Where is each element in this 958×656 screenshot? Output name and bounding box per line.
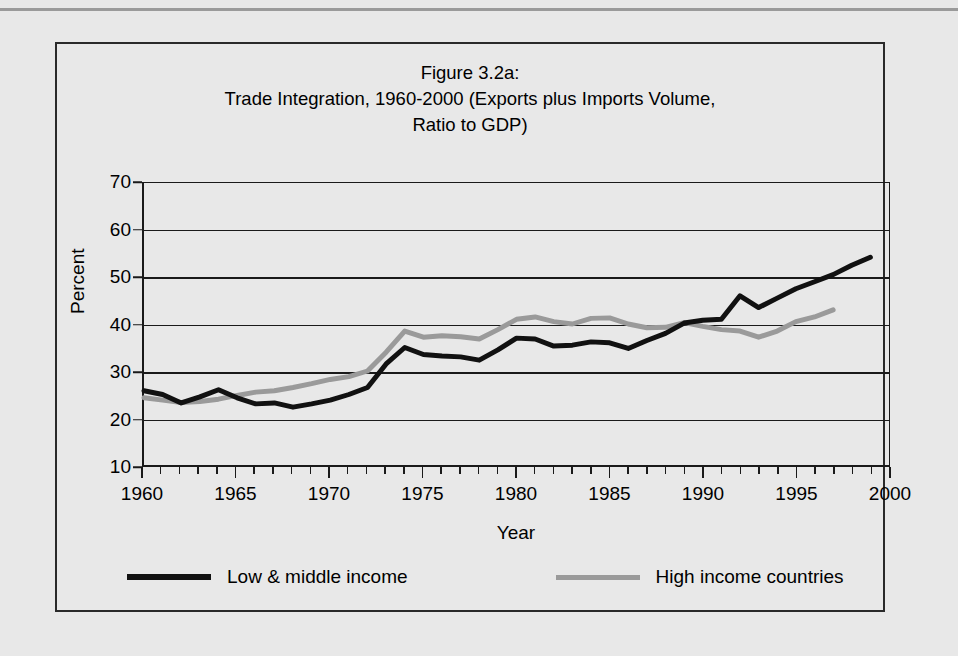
figure-page: Figure 3.2a: Trade Integration, 1960-200… [0, 0, 958, 656]
x-tick-minor [253, 467, 255, 474]
x-tick-major [609, 467, 611, 478]
data-lines [144, 183, 889, 465]
plot-area [142, 182, 890, 467]
y-tick-label: 50 [110, 266, 131, 288]
x-axis-title: Year [142, 522, 890, 544]
x-tick-label: 2000 [869, 483, 911, 505]
y-tick-label: 30 [110, 361, 131, 383]
x-tick-label: 1970 [308, 483, 350, 505]
legend-item-high-income: High income countries [556, 566, 844, 588]
x-tick-minor [403, 467, 405, 474]
x-tick-minor [721, 467, 723, 474]
x-tick-minor [646, 467, 648, 474]
y-axis-title: Percent [67, 249, 89, 314]
x-tick-major [328, 467, 330, 478]
x-tick-label: 1975 [401, 483, 443, 505]
y-tick-label: 20 [110, 409, 131, 431]
y-tick-label: 10 [110, 456, 131, 478]
x-tick-minor [440, 467, 442, 474]
x-tick-minor [758, 467, 760, 474]
legend-item-low-middle-income: Low & middle income [127, 566, 408, 588]
x-tick-major [702, 467, 704, 478]
x-tick-minor [366, 467, 368, 474]
x-tick-minor [197, 467, 199, 474]
x-tick-minor [871, 467, 873, 474]
x-tick-minor [291, 467, 293, 474]
chart-title-line-2: Trade Integration, 1960-2000 (Exports pl… [57, 86, 883, 112]
x-tick-major [141, 467, 143, 478]
page-top-rule [0, 8, 958, 11]
y-tick-label: 40 [110, 314, 131, 336]
x-tick-minor [665, 467, 667, 474]
y-tick-label: 60 [110, 219, 131, 241]
x-tick-major [889, 467, 891, 478]
chart-title: Figure 3.2a: Trade Integration, 1960-200… [57, 60, 883, 138]
x-tick-minor [459, 467, 461, 474]
series-line-low-middle-income [144, 257, 870, 407]
y-tick-label: 70 [110, 171, 131, 193]
legend-label-low-middle-income: Low & middle income [227, 566, 408, 588]
x-tick-minor [347, 467, 349, 474]
x-tick-major [422, 467, 424, 478]
legend-swatch-low-middle-income [127, 574, 211, 580]
x-tick-label: 1995 [775, 483, 817, 505]
y-tick-mark [133, 229, 142, 231]
y-tick-mark [133, 419, 142, 421]
x-tick-minor [590, 467, 592, 474]
x-tick-minor [384, 467, 386, 474]
x-tick-minor [627, 467, 629, 474]
x-tick-minor [684, 467, 686, 474]
x-tick-minor [478, 467, 480, 474]
x-tick-minor [833, 467, 835, 474]
x-tick-minor [740, 467, 742, 474]
x-tick-minor [160, 467, 162, 474]
legend-swatch-high-income [556, 575, 640, 580]
figure-frame: Figure 3.2a: Trade Integration, 1960-200… [55, 42, 885, 612]
x-tick-label: 1985 [588, 483, 630, 505]
x-tick-major [235, 467, 237, 478]
x-tick-minor [216, 467, 218, 474]
x-tick-label: 1980 [495, 483, 537, 505]
x-tick-minor [852, 467, 854, 474]
x-tick-minor [497, 467, 499, 474]
y-tick-mark [133, 324, 142, 326]
plot-wrapper: 10203040506070 1960196519701975198019851… [142, 182, 890, 467]
x-tick-minor [179, 467, 181, 474]
x-tick-minor [777, 467, 779, 474]
x-tick-major [515, 467, 517, 478]
y-tick-mark [133, 276, 142, 278]
chart-legend: Low & middle income High income countrie… [117, 566, 847, 588]
x-tick-minor [814, 467, 816, 474]
x-tick-label: 1965 [214, 483, 256, 505]
x-tick-label: 1960 [121, 483, 163, 505]
chart-title-line-3: Ratio to GDP) [57, 112, 883, 138]
legend-label-high-income: High income countries [656, 566, 844, 588]
x-tick-minor [272, 467, 274, 474]
x-tick-minor [534, 467, 536, 474]
x-tick-minor [571, 467, 573, 474]
x-tick-minor [553, 467, 555, 474]
x-tick-major [796, 467, 798, 478]
y-tick-mark [133, 371, 142, 373]
x-tick-minor [310, 467, 312, 474]
y-tick-mark [133, 181, 142, 183]
chart-title-line-1: Figure 3.2a: [57, 60, 883, 86]
x-tick-label: 1990 [682, 483, 724, 505]
